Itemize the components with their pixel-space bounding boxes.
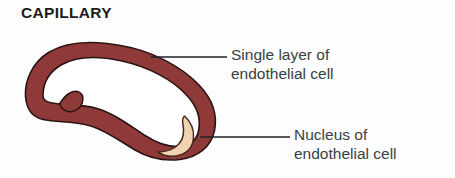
label-single-layer-line-1: Single layer of (231, 45, 334, 64)
capillary-diagram-figure: CAPILLARY Single layer of endothelial ce… (0, 0, 455, 178)
label-nucleus-of-endothelial-cell: Nucleus of endothelial cell (294, 125, 397, 163)
label-nucleus-line-1: Nucleus of (294, 125, 397, 144)
label-single-layer-of-endothelial-cell: Single layer of endothelial cell (231, 45, 334, 83)
label-single-layer-line-2: endothelial cell (231, 64, 334, 83)
label-nucleus-line-2: endothelial cell (294, 144, 397, 163)
